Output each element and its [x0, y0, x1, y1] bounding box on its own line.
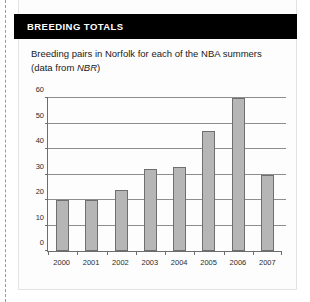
- bar-slot: [107, 98, 136, 251]
- x-axis-tick-label: 2005: [194, 258, 223, 270]
- y-axis-tick-label: 40: [36, 136, 44, 145]
- chart-bar: [144, 169, 157, 251]
- y-axis-tick-label: 20: [36, 187, 44, 196]
- y-axis-tick-label: 50: [36, 110, 44, 119]
- x-axis-tick-label: 2002: [106, 258, 135, 270]
- bar-slot: [253, 98, 282, 251]
- tear-off-dashed-line: [5, 0, 6, 302]
- y-axis-tick-label: 0: [40, 238, 44, 247]
- page-title: BREEDING TOTALS: [14, 21, 124, 32]
- x-axis-tick-mark: [224, 251, 225, 255]
- x-axis-tick-mark: [281, 251, 282, 255]
- chart-x-axis-labels: 20002001200220032004200520062007: [47, 258, 282, 270]
- subtitle-source-name: NBR: [77, 62, 97, 73]
- y-axis-tick-label: 10: [36, 212, 44, 221]
- chart-bar: [261, 175, 274, 252]
- x-axis-tick-label: 2001: [76, 258, 105, 270]
- bar-slot: [165, 98, 194, 251]
- bar-slot: [136, 98, 165, 251]
- bar-slot: [194, 98, 223, 251]
- x-axis-tick-mark: [77, 251, 78, 255]
- subtitle-source-suffix: ): [97, 62, 100, 73]
- chart-bar: [232, 98, 245, 251]
- subtitle-line-1: Breeding pairs in Norfolk for each of th…: [31, 47, 281, 61]
- chart-bar: [85, 200, 98, 251]
- card-header: BREEDING TOTALS: [14, 14, 297, 39]
- y-axis-tick-label: 60: [36, 85, 44, 94]
- x-axis-tick-mark: [194, 251, 195, 255]
- bar-slot: [224, 98, 253, 251]
- x-axis-tick-label: 2003: [135, 258, 164, 270]
- chart-bar: [173, 167, 186, 251]
- chart-bar: [115, 190, 128, 251]
- x-axis-tick-mark: [48, 251, 49, 255]
- x-axis-tick-mark: [136, 251, 137, 255]
- x-axis-tick-mark: [165, 251, 166, 255]
- chart-bars: [48, 98, 282, 251]
- bar-slot: [48, 98, 77, 251]
- chart-bar: [202, 131, 215, 251]
- bar-slot: [77, 98, 106, 251]
- x-axis-tick-label: 2007: [253, 258, 282, 270]
- x-axis-tick-label: 2006: [223, 258, 252, 270]
- subtitle-line-2: (data from NBR): [31, 61, 281, 75]
- x-axis-tick-label: 2000: [47, 258, 76, 270]
- chart-bar: [56, 200, 69, 251]
- subtitle-source-prefix: (data from: [31, 62, 77, 73]
- chart-plot-area: 0102030405060: [47, 98, 282, 252]
- x-axis-tick-mark: [253, 251, 254, 255]
- bar-chart: 0102030405060 20002001200220032004200520…: [26, 92, 288, 280]
- x-axis-tick-label: 2004: [165, 258, 194, 270]
- y-axis-tick-label: 30: [36, 161, 44, 170]
- card-subtitle: Breeding pairs in Norfolk for each of th…: [31, 47, 281, 74]
- x-axis-tick-mark: [107, 251, 108, 255]
